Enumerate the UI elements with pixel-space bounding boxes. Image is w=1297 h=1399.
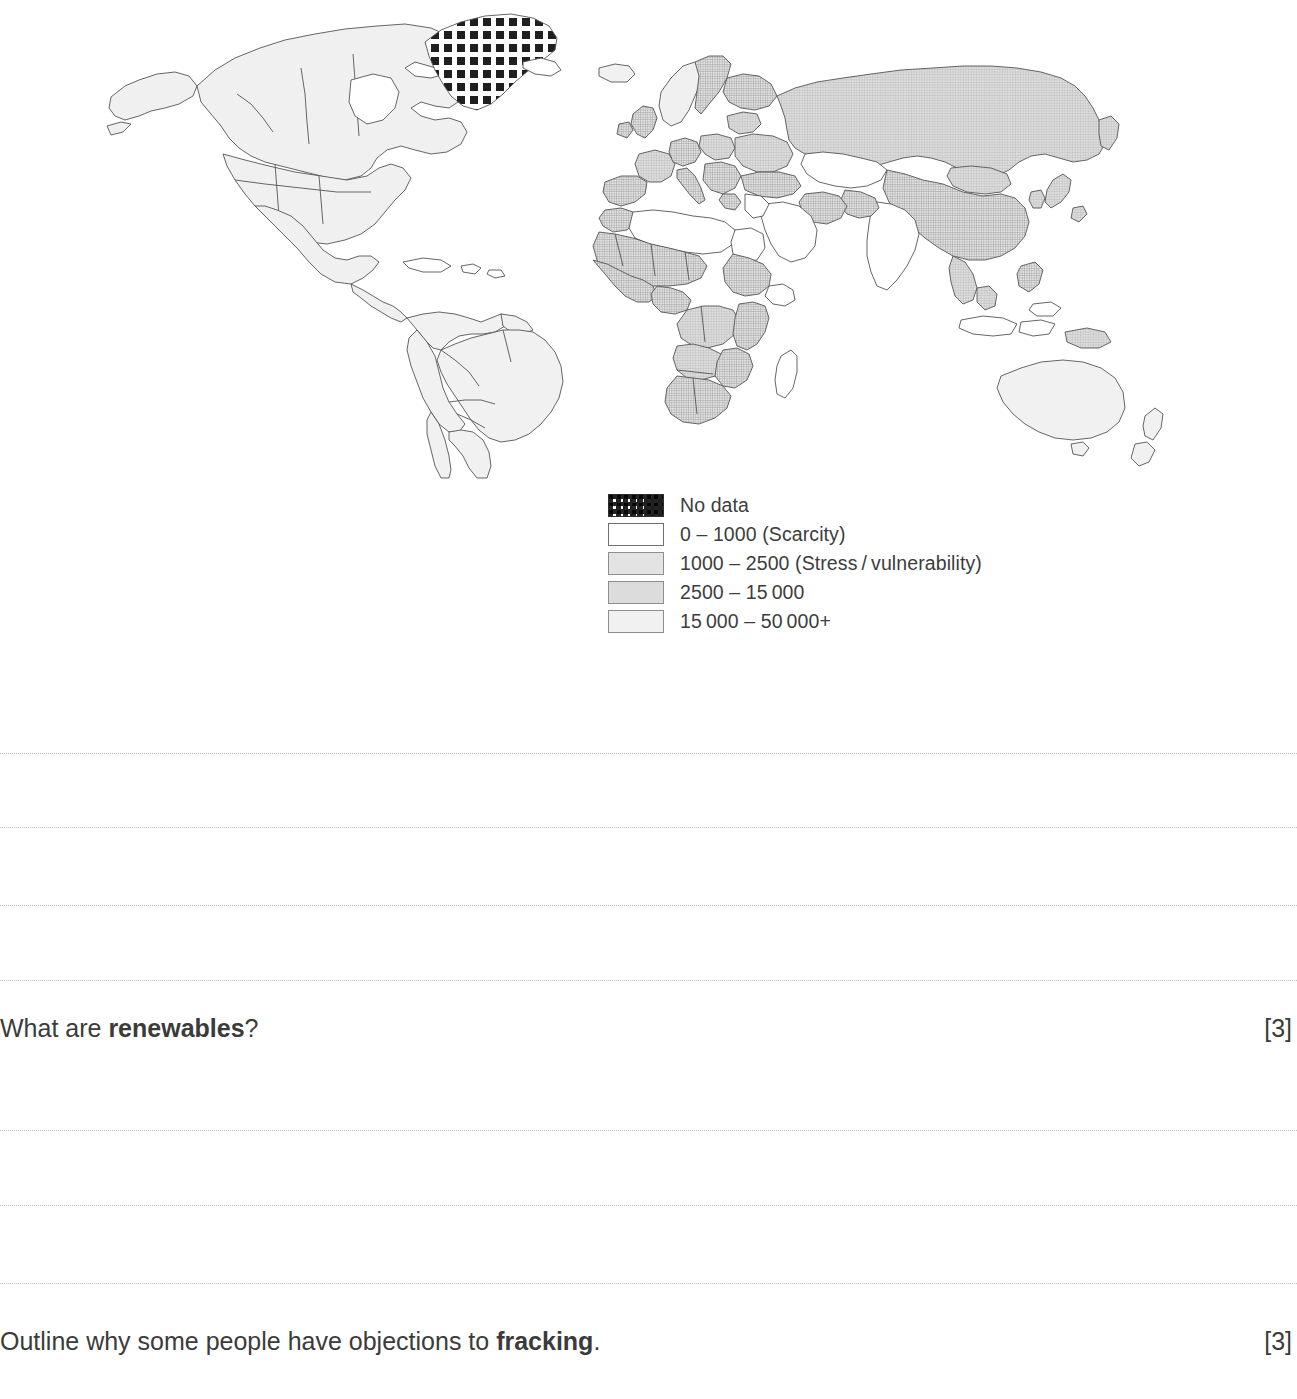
legend-swatch-high-range-icon bbox=[608, 610, 664, 633]
question-renewables-marks: [3] bbox=[1264, 1011, 1297, 1045]
legend-item-mid-range: 2500 – 15 000 bbox=[608, 578, 1038, 607]
question-fracking-text: Outline why some people have objections … bbox=[0, 1324, 600, 1358]
legend-item-stress: 1000 – 2500 (Stress / vulnerability) bbox=[608, 549, 1038, 578]
legend-item-high-range: 15 000 – 50 000+ bbox=[608, 607, 1038, 636]
world-map-figure: No data 0 – 1000 (Scarcity) 1000 – 2500 … bbox=[0, 0, 1297, 480]
answer-line[interactable] bbox=[0, 1130, 1297, 1131]
answer-line[interactable] bbox=[0, 1283, 1297, 1284]
question-fracking: Outline why some people have objections … bbox=[0, 1324, 1297, 1358]
answer-line[interactable] bbox=[0, 827, 1297, 828]
answer-line[interactable] bbox=[0, 753, 1297, 754]
world-map-graphic bbox=[105, 4, 1170, 479]
legend-item-scarcity: 0 – 1000 (Scarcity) bbox=[608, 520, 1038, 549]
legend-label-scarcity: 0 – 1000 (Scarcity) bbox=[680, 523, 846, 546]
answer-line[interactable] bbox=[0, 1205, 1297, 1206]
legend-label-high-range: 15 000 – 50 000+ bbox=[680, 610, 831, 633]
legend-swatch-no-data-icon bbox=[608, 494, 664, 517]
legend-swatch-mid-range-icon bbox=[608, 581, 664, 604]
question-renewables-text: What are renewables? bbox=[0, 1011, 258, 1045]
legend-swatch-stress-icon bbox=[608, 552, 664, 575]
legend-label-stress: 1000 – 2500 (Stress / vulnerability) bbox=[680, 552, 982, 575]
legend-item-no-data: No data bbox=[608, 491, 1038, 520]
map-legend: No data 0 – 1000 (Scarcity) 1000 – 2500 … bbox=[608, 491, 1038, 636]
answer-line[interactable] bbox=[0, 980, 1297, 981]
answer-line[interactable] bbox=[0, 905, 1297, 906]
legend-label-no-data: No data bbox=[680, 494, 749, 517]
question-renewables: What are renewables? [3] bbox=[0, 1011, 1297, 1045]
question-fracking-marks: [3] bbox=[1264, 1324, 1297, 1358]
legend-swatch-scarcity-icon bbox=[608, 523, 664, 546]
legend-label-mid-range: 2500 – 15 000 bbox=[680, 581, 805, 604]
